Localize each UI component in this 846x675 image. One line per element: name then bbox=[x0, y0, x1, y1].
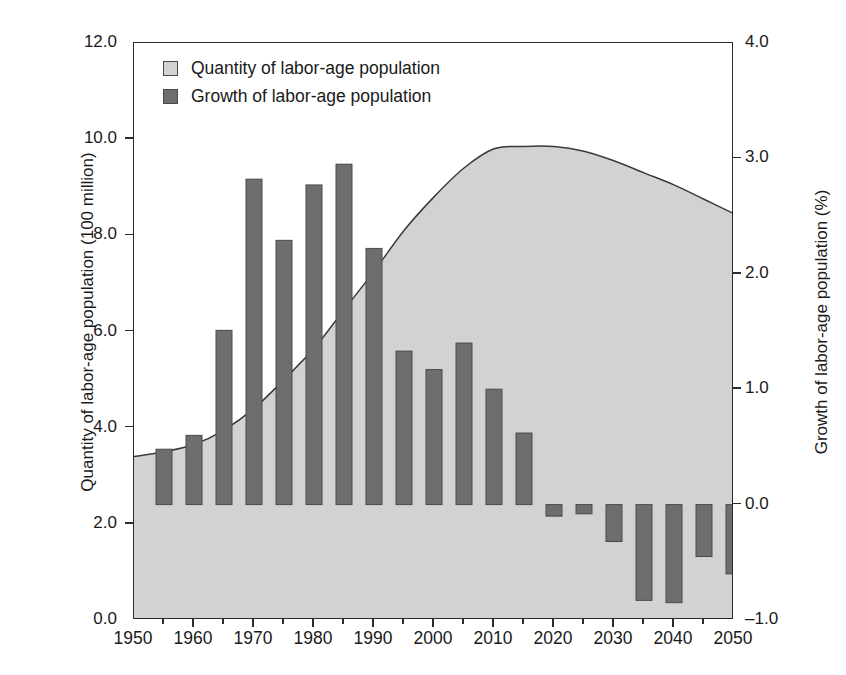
y-tick-label-right-2.0: 2.0 bbox=[745, 264, 769, 281]
y-tick-label-right-4.0: 4.0 bbox=[745, 33, 769, 50]
x-tick-2010 bbox=[492, 619, 494, 627]
legend-swatch-growth bbox=[163, 89, 178, 104]
x-tick-label-1970: 1970 bbox=[221, 630, 285, 647]
y-tick-left-6.0 bbox=[125, 330, 133, 332]
bar-growth-2005 bbox=[456, 343, 472, 505]
bar-growth-2040 bbox=[666, 505, 682, 603]
x-tick-1965 bbox=[222, 619, 224, 624]
y-tick-label-left-10.0: 10.0 bbox=[55, 129, 117, 146]
y-tick-label-left-12.0: 12.0 bbox=[55, 33, 117, 50]
x-tick-2025 bbox=[582, 619, 584, 624]
x-tick-label-1960: 1960 bbox=[161, 630, 225, 647]
y-tick-label-left-0.0: 0.0 bbox=[55, 610, 117, 627]
bar-growth-2030 bbox=[606, 505, 622, 542]
bar-growth-1960 bbox=[186, 435, 202, 504]
chart-legend: Quantity of labor-age population Growth … bbox=[163, 56, 440, 112]
legend-item-growth: Growth of labor-age population bbox=[163, 84, 440, 109]
legend-label-growth: Growth of labor-age population bbox=[191, 86, 431, 107]
legend-item-quantity: Quantity of labor-age population bbox=[163, 56, 440, 81]
x-tick-label-2010: 2010 bbox=[461, 630, 525, 647]
x-tick-1980 bbox=[312, 619, 314, 627]
x-tick-1985 bbox=[342, 619, 344, 624]
y-tick-label-right-3.0: 3.0 bbox=[745, 148, 769, 165]
x-tick-2005 bbox=[462, 619, 464, 624]
x-tick-2030 bbox=[612, 619, 614, 627]
plot-area bbox=[133, 42, 733, 619]
y-tick-label-left-4.0: 4.0 bbox=[55, 418, 117, 435]
x-tick-label-1950: 1950 bbox=[101, 630, 165, 647]
x-tick-2045 bbox=[702, 619, 704, 624]
x-tick-2040 bbox=[672, 619, 674, 627]
x-tick-label-2000: 2000 bbox=[401, 630, 465, 647]
bar-growth-1980 bbox=[306, 185, 322, 505]
y-tick-label-left-2.0: 2.0 bbox=[55, 514, 117, 531]
y-tick-label-left-8.0: 8.0 bbox=[55, 225, 117, 242]
bar-growth-1975 bbox=[276, 240, 292, 504]
x-tick-1960 bbox=[192, 619, 194, 627]
bar-growth-1985 bbox=[336, 164, 352, 504]
bar-growth-2025 bbox=[576, 505, 592, 514]
x-tick-1995 bbox=[402, 619, 404, 624]
x-tick-label-2030: 2030 bbox=[581, 630, 645, 647]
y-tick-right-0.0 bbox=[733, 503, 741, 505]
x-tick-2015 bbox=[522, 619, 524, 624]
x-tick-1990 bbox=[372, 619, 374, 627]
bar-growth-2015 bbox=[516, 433, 532, 505]
bar-growth-1970 bbox=[246, 179, 262, 504]
y-tick-left-8.0 bbox=[125, 234, 133, 236]
y-axis-right-title: Growth of labor-age population (%) bbox=[812, 112, 832, 532]
x-tick-label-2020: 2020 bbox=[521, 630, 585, 647]
bar-growth-2035 bbox=[636, 505, 652, 601]
bar-growth-2045 bbox=[696, 505, 712, 557]
x-tick-2035 bbox=[642, 619, 644, 624]
chart-figure: Quantity of labor-age population Growth … bbox=[0, 0, 846, 675]
y-tick-label-left-6.0: 6.0 bbox=[55, 322, 117, 339]
y-tick-label-right--1.0: –1.0 bbox=[745, 610, 778, 627]
y-tick-right-3.0 bbox=[733, 157, 741, 159]
legend-label-quantity: Quantity of labor-age population bbox=[191, 58, 440, 79]
plot-canvas bbox=[134, 43, 733, 619]
bar-growth-1995 bbox=[396, 351, 412, 504]
x-tick-1970 bbox=[252, 619, 254, 627]
bar-growth-2050 bbox=[726, 505, 733, 574]
x-tick-label-2050: 2050 bbox=[701, 630, 765, 647]
bar-growth-1955 bbox=[156, 449, 172, 504]
bar-growth-2010 bbox=[486, 389, 502, 504]
y-tick-left-10.0 bbox=[125, 137, 133, 139]
x-tick-label-2040: 2040 bbox=[641, 630, 705, 647]
y-tick-left-2.0 bbox=[125, 522, 133, 524]
x-tick-label-1980: 1980 bbox=[281, 630, 345, 647]
bar-growth-1990 bbox=[366, 248, 382, 504]
x-tick-2020 bbox=[552, 619, 554, 627]
bar-growth-1965 bbox=[216, 330, 232, 504]
y-tick-left-4.0 bbox=[125, 426, 133, 428]
y-tick-right-2.0 bbox=[733, 272, 741, 274]
bar-growth-2000 bbox=[426, 370, 442, 505]
y-tick-right-1.0 bbox=[733, 387, 741, 389]
x-tick-label-1990: 1990 bbox=[341, 630, 405, 647]
y-tick-label-right-0.0: 0.0 bbox=[745, 495, 769, 512]
legend-swatch-quantity bbox=[163, 61, 178, 76]
x-tick-1975 bbox=[282, 619, 284, 624]
y-tick-label-right-1.0: 1.0 bbox=[745, 379, 769, 396]
x-tick-1955 bbox=[162, 619, 164, 624]
bar-growth-2020 bbox=[546, 505, 562, 517]
x-tick-2000 bbox=[432, 619, 434, 627]
